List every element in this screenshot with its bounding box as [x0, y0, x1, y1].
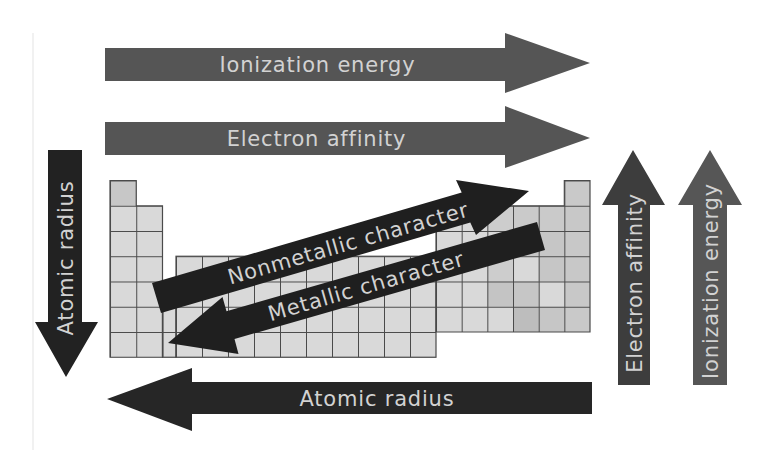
ionization-energy-label-right: Ionization energy [699, 183, 723, 379]
atomic-radius-arrow-left: Atomic radius [35, 150, 98, 377]
ionization-energy-arrow-top: Ionization energy [105, 33, 590, 93]
electron-affinity-label-top: Electron affinity [227, 127, 407, 151]
grid-lines [110, 181, 590, 358]
ionization-energy-label-top: Ionization energy [220, 53, 416, 77]
periodic-trends-diagram: Ionization energy Electron affinity Atom… [0, 0, 764, 456]
atomic-radius-arrow-bottom: Atomic radius [107, 368, 592, 431]
electron-affinity-label-right: Electron affinity [623, 193, 647, 373]
electron-affinity-arrow-top: Electron affinity [105, 106, 590, 168]
atomic-radius-label-bottom: Atomic radius [300, 387, 455, 411]
electron-affinity-arrow-right: Electron affinity [602, 150, 665, 385]
atomic-radius-label-left: Atomic radius [54, 181, 78, 336]
periodic-table-grid [110, 181, 590, 358]
diagram-svg: Ionization energy Electron affinity Atom… [0, 0, 764, 456]
ionization-energy-arrow-right: Ionization energy [678, 150, 742, 385]
